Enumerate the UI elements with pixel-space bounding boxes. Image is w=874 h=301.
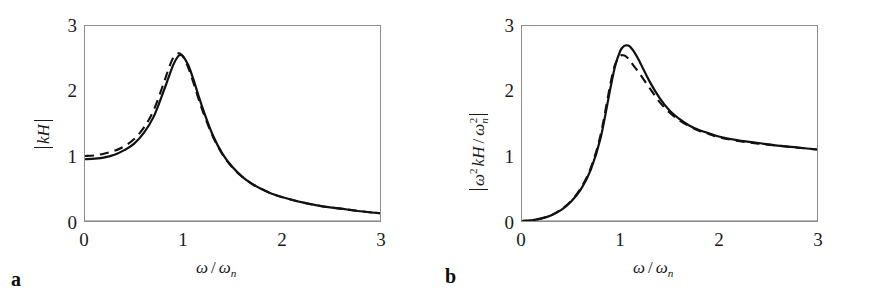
y-axis-abs-b: ω2kH/ωn2 xyxy=(469,114,488,190)
y-axis-title-a: kH xyxy=(34,120,54,148)
figure-container: 3 2 1 0 0 1 2 3 ω/ωn kH a 3 2 1 0 0 1 2 … xyxy=(0,0,874,301)
x-tick-b-0: 0 xyxy=(510,230,532,249)
x-axis-slash-b: / xyxy=(645,258,656,277)
y-axis-omega-b: ω xyxy=(469,174,488,186)
y-tick-b-1: 1 xyxy=(492,147,514,166)
x-tick-b-2: 2 xyxy=(708,230,730,249)
plot-curves-b xyxy=(522,26,817,221)
curve-solid xyxy=(85,55,380,213)
panel-letter-a: a xyxy=(11,268,21,291)
x-axis-omega-n-a: ω xyxy=(219,258,231,277)
y-axis-abs-a: kH xyxy=(34,120,53,148)
y-axis-slash-b: / xyxy=(469,136,488,147)
y-tick-b-3: 3 xyxy=(492,16,514,35)
y-tick-a-1: 1 xyxy=(55,147,77,166)
x-axis-slash-a: / xyxy=(208,258,219,277)
y-axis-title-b: ω2kH/ωn2 xyxy=(467,114,490,190)
curve-dashed xyxy=(522,55,817,221)
y-axis-sup2-b: 2 xyxy=(467,168,479,174)
y-axis-kh-a: kH xyxy=(34,124,53,144)
x-tick-a-1: 1 xyxy=(172,230,194,249)
x-axis-sub-n-b: n xyxy=(668,267,674,279)
plot-curves-a xyxy=(85,26,380,221)
x-tick-a-0: 0 xyxy=(73,230,95,249)
y-axis-kh-b: kH xyxy=(469,147,488,169)
panel-a: 3 2 1 0 0 1 2 3 ω/ωn kH a xyxy=(0,0,437,301)
x-tick-b-3: 3 xyxy=(807,230,829,249)
y-tick-b-2: 2 xyxy=(492,81,514,100)
x-axis-title-b: ω/ωn xyxy=(633,258,673,279)
x-tick-a-2: 2 xyxy=(271,230,293,249)
y-axis-sub-n-b: n xyxy=(478,118,490,124)
y-axis-sup2b-b: 2 xyxy=(467,118,479,124)
y-tick-a-3: 3 xyxy=(55,16,77,35)
x-axis-sub-n-a: n xyxy=(231,267,237,279)
y-axis-omega2-b: ω xyxy=(469,124,488,136)
curve-solid xyxy=(522,45,817,221)
x-axis-title-a: ω/ωn xyxy=(196,258,236,279)
x-tick-b-1: 1 xyxy=(609,230,631,249)
plot-area-b xyxy=(521,25,818,222)
x-axis-omega-a: ω xyxy=(196,258,208,277)
curve-dashed xyxy=(85,53,380,213)
x-tick-a-3: 3 xyxy=(370,230,392,249)
panel-b: 3 2 1 0 0 1 2 3 ω/ωn ω2kH/ωn2 b xyxy=(437,0,874,301)
plot-area-a xyxy=(84,25,381,222)
y-tick-a-2: 2 xyxy=(55,81,77,100)
x-axis-omega-n-b: ω xyxy=(656,258,668,277)
panel-letter-b: b xyxy=(445,265,456,288)
x-axis-omega-b: ω xyxy=(633,258,645,277)
